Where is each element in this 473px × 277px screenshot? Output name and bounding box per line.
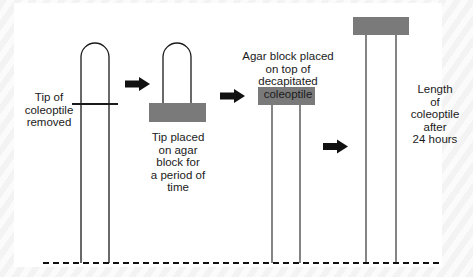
label-length-after-24h: Length of coleoptile after 24 hours [405,83,465,146]
diagram-background [14,3,442,267]
label-tip-on-agar: Tip placed on agar block for a period of… [145,131,211,194]
label-block-on-decapitated: Agar block placed on top of decapitated … [236,50,340,100]
agar-block-stage-4 [353,17,409,35]
label-tip-removed: Tip of coleoptile removed [20,91,78,129]
agar-block-stage-2 [149,103,206,122]
diagram-canvas [0,0,473,277]
